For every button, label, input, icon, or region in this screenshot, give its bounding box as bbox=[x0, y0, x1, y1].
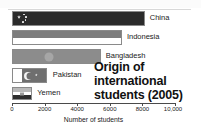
flag-indonesia-icon bbox=[13, 31, 121, 44]
flag-china-icon bbox=[13, 12, 144, 25]
chart-title: Origin of international students (2005) bbox=[94, 60, 198, 102]
bar-chart-figure: China Indonesia Bangladesh bbox=[0, 0, 201, 129]
top-divider-rule bbox=[8, 9, 191, 10]
x-tick-label-1: 2000 bbox=[38, 106, 51, 112]
x-tick-label-5: 10,000 bbox=[164, 106, 182, 112]
x-axis-title: Number of students bbox=[12, 116, 175, 123]
bar-label-pakistan: Pakistan bbox=[53, 71, 82, 79]
bar-indonesia bbox=[12, 30, 122, 45]
bar-label-bangladesh: Bangladesh bbox=[106, 52, 146, 60]
bar-row-indonesia: Indonesia bbox=[12, 30, 175, 45]
x-tick-label-0: 0 bbox=[10, 106, 13, 112]
bar-yemen bbox=[12, 87, 32, 100]
bar-pakistan bbox=[12, 68, 47, 83]
bar-bangladesh bbox=[12, 49, 101, 64]
x-tick-label-3: 6000 bbox=[103, 106, 116, 112]
bar-label-china: China bbox=[150, 14, 170, 22]
flag-yemen-icon bbox=[13, 88, 31, 99]
bar-row-china: China bbox=[12, 11, 175, 26]
bar-label-yemen: Yemen bbox=[37, 89, 60, 97]
chart-title-line-1: Origin of bbox=[94, 60, 198, 74]
chart-title-line-3: students (2005) bbox=[94, 88, 198, 102]
bar-label-indonesia: Indonesia bbox=[127, 33, 160, 41]
flag-pakistan-icon bbox=[13, 69, 46, 82]
x-tick-label-2: 4000 bbox=[71, 106, 84, 112]
x-tick-label-4: 8000 bbox=[136, 106, 149, 112]
bar-china bbox=[12, 11, 145, 26]
flag-bangladesh-icon bbox=[13, 50, 100, 63]
top-banner-strip bbox=[0, 0, 201, 8]
chart-title-line-2: international bbox=[94, 74, 198, 88]
x-axis-line bbox=[12, 103, 175, 104]
